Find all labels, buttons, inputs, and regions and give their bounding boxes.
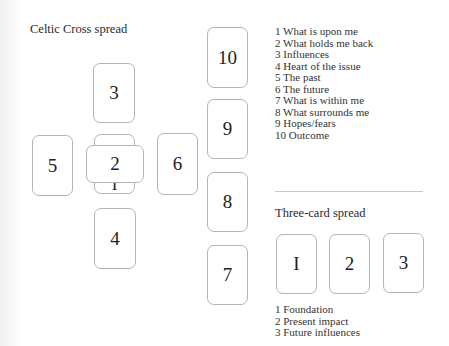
left-edge-shading bbox=[0, 0, 22, 346]
card-4: 4 bbox=[94, 208, 136, 269]
three-card-1: I bbox=[276, 234, 317, 294]
card-5: 5 bbox=[32, 135, 73, 196]
celtic-cross-title: Celtic Cross spread bbox=[30, 22, 127, 37]
legend-item: 9 Hopes/fears bbox=[275, 118, 373, 130]
three-card-3: 3 bbox=[383, 233, 424, 293]
card-6: 6 bbox=[157, 133, 198, 195]
card-2: 2 bbox=[86, 145, 144, 183]
legend-item: 1 What is upon me bbox=[275, 26, 373, 38]
legend-item: 3 Influences bbox=[275, 49, 373, 61]
legend-item: 10 Outcome bbox=[275, 130, 373, 142]
three-card-2: 2 bbox=[329, 234, 370, 294]
card-10: 10 bbox=[207, 27, 248, 88]
three-card-legend: 1 Foundation 2 Present impact 3 Future i… bbox=[275, 304, 360, 339]
card-8: 8 bbox=[207, 172, 248, 232]
section-divider bbox=[275, 191, 423, 192]
card-7: 7 bbox=[207, 245, 248, 305]
legend-item: 5 The past bbox=[275, 72, 373, 84]
legend-item: 1 Foundation bbox=[275, 304, 360, 316]
card-9: 9 bbox=[207, 99, 248, 159]
legend-item: 7 What is within me bbox=[275, 95, 373, 107]
three-card-title: Three-card spread bbox=[275, 206, 366, 221]
card-3: 3 bbox=[93, 63, 135, 123]
legend-item: 3 Future influences bbox=[275, 327, 360, 339]
celtic-cross-legend: 1 What is upon me 2 What holds me back 3… bbox=[275, 26, 373, 141]
